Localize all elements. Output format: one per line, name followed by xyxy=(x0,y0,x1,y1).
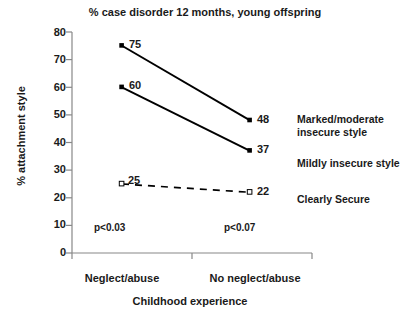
data-point-marker xyxy=(119,181,124,186)
legend-item-clearly-secure: Clearly Secure xyxy=(297,193,370,206)
data-point-marker xyxy=(247,118,252,123)
data-point-marker xyxy=(247,190,252,195)
annotation-p-value-left: p<0.03 xyxy=(94,222,125,233)
data-label-clearly-secure-right: 22 xyxy=(257,185,269,197)
data-label-mildly-insecure-left: 60 xyxy=(129,79,141,91)
data-label-marked-moderate-right: 48 xyxy=(257,113,269,125)
data-point-marker xyxy=(119,43,124,48)
legend-item-marked-moderate-insecure: Marked/moderate insecure style xyxy=(297,113,384,139)
annotation-p-value-right: p<0.07 xyxy=(224,222,255,233)
data-point-marker xyxy=(119,85,124,90)
data-point-marker xyxy=(247,148,252,153)
series-line-mildly-insecure xyxy=(119,85,252,153)
data-label-marked-moderate-left: 75 xyxy=(129,38,141,50)
legend-item-mildly-insecure: Mildly insecure style xyxy=(297,157,400,170)
data-label-clearly-secure-left: 25 xyxy=(128,174,140,186)
data-label-mildly-insecure-right: 37 xyxy=(257,143,269,155)
chart-figure: % case disorder 12 months, young offspri… xyxy=(0,0,410,320)
